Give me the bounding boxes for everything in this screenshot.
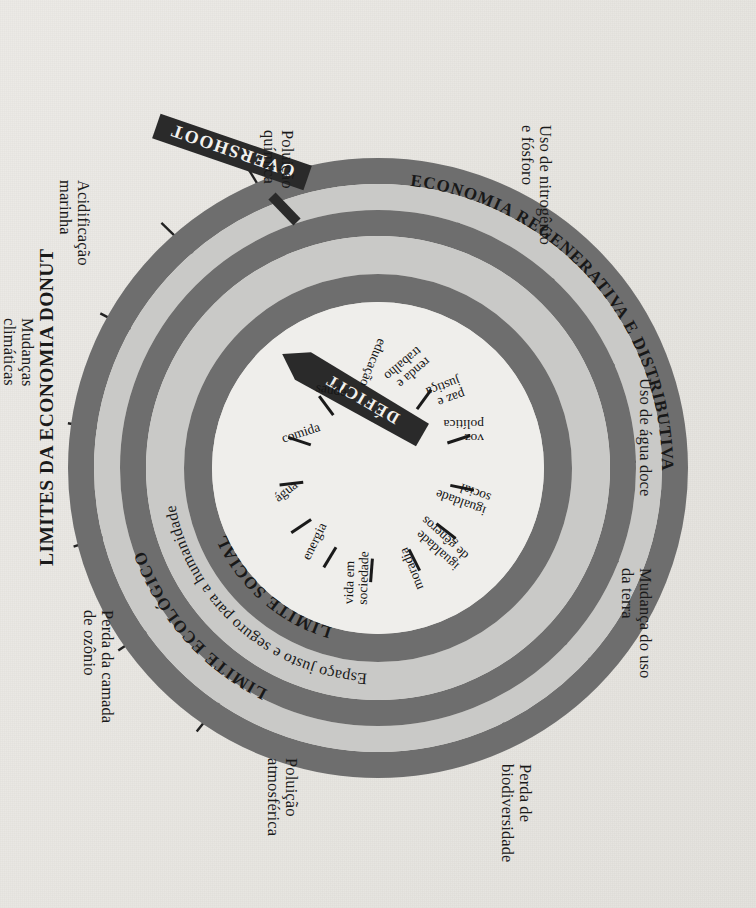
outer-label-poluicao-atmosferica: Poluição atmosférica: [263, 758, 300, 908]
donut-diagram: ECONOMIA REGENERATIVA E DISTRIBUTIVA LIM…: [0, 0, 756, 908]
outer-label-mudanca-uso-terra: Mudança do uso da terra: [617, 568, 654, 758]
page-title: LIMITES DA ECONOMIA DONUT: [36, 246, 58, 566]
inner-label-voz-politica: voz política: [398, 416, 484, 445]
outer-label-uso-nitrogenio-fosforo: Uso de nitrogênio e fósforo: [517, 125, 554, 345]
outer-label-acidificacao-marinha: Acidificação marinha: [55, 180, 92, 350]
outer-label-perda-camada-ozonio: Perda da camada de ozônio: [79, 610, 116, 820]
outer-label-mudancas-climaticas: Mudanças climáticas: [0, 318, 36, 468]
outer-label-uso-agua-doce: Uso de água doce: [636, 378, 654, 578]
outer-label-poluicao-quimica: Poluição química: [259, 130, 296, 280]
outer-label-perda-biodiversidade: Perda de biodiversidade: [497, 764, 534, 908]
inner-label-vida-em-sociedade: vida em sociedade: [342, 504, 374, 605]
